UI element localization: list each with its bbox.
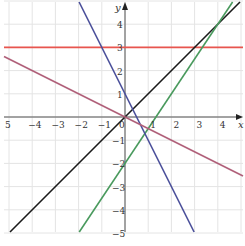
- x-tick-label: 0: [119, 120, 125, 130]
- x-tick-label: −4: [28, 120, 42, 130]
- y-tick-label: −1: [112, 136, 125, 146]
- x-tick-label: 3: [197, 120, 203, 130]
- x-tick-label: 2: [173, 120, 179, 130]
- x-tick-label: −1: [98, 120, 111, 130]
- y-axis-arrow: [122, 2, 128, 10]
- x-tick-label: −3: [51, 120, 65, 130]
- y-tick-label: 1: [117, 90, 123, 100]
- x-axis-label: x: [238, 119, 244, 130]
- x-tick-label: −2: [75, 120, 88, 130]
- y-axis-label: y: [114, 2, 121, 13]
- x-tick-label: 4: [220, 120, 226, 130]
- series-line: [4, 57, 243, 177]
- y-tick-label: 3: [117, 43, 123, 53]
- y-tick-label: 2: [117, 67, 123, 77]
- y-tick-label: −4: [112, 206, 126, 216]
- y-tick-label: −3: [112, 183, 126, 193]
- line-chart: 5−4−3−2−1012344321−1−2−3−4−5 x y: [0, 0, 245, 246]
- x-tick-label: 1: [150, 120, 156, 130]
- y-tick-label: −5: [112, 229, 126, 239]
- tick-labels: 5−4−3−2−1012344321−1−2−3−4−5: [5, 20, 226, 239]
- y-tick-label: −2: [112, 159, 125, 169]
- y-tick-label: 4: [117, 20, 123, 30]
- x-tick-label: 5: [5, 120, 11, 130]
